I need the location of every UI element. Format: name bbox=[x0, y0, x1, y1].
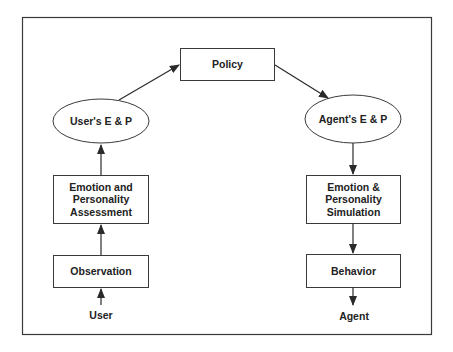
simulation-line-3: Simulation bbox=[327, 206, 381, 219]
edge-user-ep-to-policy bbox=[119, 65, 179, 100]
observation-label: Observation bbox=[53, 255, 149, 288]
user-label: User bbox=[71, 308, 131, 322]
agent-ep-label: Agent's E & P bbox=[305, 95, 401, 143]
assessment-line-3: Assessment bbox=[70, 206, 132, 219]
simulation-label: Emotion & Personality Simulation bbox=[306, 175, 401, 224]
user-ep-label: User's E & P bbox=[53, 99, 149, 143]
behavior-label: Behavior bbox=[306, 254, 401, 288]
assessment-label: Emotion and Personality Assessment bbox=[53, 175, 149, 224]
simulation-line-2: Personality bbox=[325, 193, 382, 206]
policy-label: Policy bbox=[180, 48, 275, 81]
agent-label: Agent bbox=[324, 309, 384, 323]
assessment-line-1: Emotion and bbox=[69, 181, 133, 194]
edge-policy-to-agent-ep bbox=[275, 65, 328, 98]
assessment-line-2: Personality bbox=[73, 193, 130, 206]
simulation-line-1: Emotion & bbox=[327, 181, 380, 194]
